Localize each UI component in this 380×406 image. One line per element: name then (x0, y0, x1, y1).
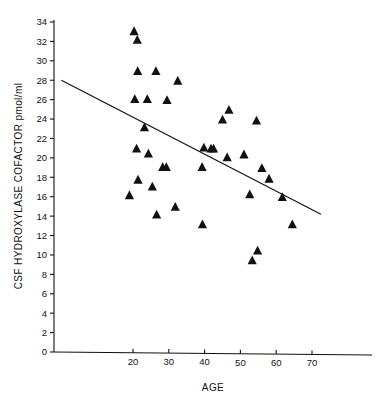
data-point-marker (248, 255, 257, 264)
y-tick-label: 6 (42, 288, 47, 299)
y-tick-label: 10 (36, 249, 47, 260)
y-tick-label: 24 (36, 113, 47, 124)
data-point-marker (224, 105, 233, 114)
y-tick-label: 32 (36, 36, 47, 47)
data-point-marker (151, 66, 160, 75)
y-tick-label: 0 (42, 346, 47, 357)
data-point-marker (171, 202, 180, 211)
data-point-marker (143, 94, 152, 103)
y-tick-label: 2 (42, 327, 47, 338)
data-point-marker (253, 246, 262, 255)
data-point-marker (199, 143, 208, 152)
data-points-group (125, 26, 297, 264)
y-tick-label: 34 (36, 16, 47, 27)
data-point-marker (132, 144, 141, 153)
data-point-marker (148, 182, 157, 191)
data-point-marker (223, 153, 232, 162)
x-axis-line (54, 352, 372, 355)
x-tick-label: 50 (235, 357, 246, 368)
chart-canvas: 0246810121416182022242628303234 20304050… (0, 0, 380, 406)
data-point-marker (129, 26, 138, 35)
x-tick-label: 40 (199, 356, 210, 367)
axes-group (54, 20, 372, 355)
scatter-plot-figure: 0246810121416182022242628303234 20304050… (0, 0, 380, 406)
data-point-marker (133, 175, 142, 184)
data-point-marker (133, 35, 142, 44)
y-tick-label: 18 (36, 172, 47, 183)
data-point-marker (173, 76, 182, 85)
x-tick-label: 60 (271, 357, 282, 368)
data-point-marker (252, 116, 261, 125)
y-tick-label: 28 (36, 75, 47, 86)
y-tick-label: 12 (36, 230, 47, 241)
x-axis-title: AGE (202, 382, 224, 393)
data-point-marker (245, 189, 254, 198)
x-axis-ticks: 203040506070 (128, 349, 318, 369)
y-tick-label: 4 (42, 308, 47, 319)
x-tick-label: 30 (164, 356, 175, 367)
data-point-marker (144, 149, 153, 158)
data-point-marker (239, 150, 248, 159)
data-point-marker (130, 94, 139, 103)
y-axis-ticks: 0246810121416182022242628303234 (36, 16, 54, 357)
y-axis-title: CSF HYDROXYLASE COFACTOR pmol/ml (13, 83, 24, 290)
data-point-marker (133, 66, 142, 75)
data-point-marker (218, 115, 227, 124)
y-tick-label: 14 (36, 211, 47, 222)
y-tick-label: 8 (42, 269, 47, 280)
data-point-marker (198, 219, 207, 228)
data-point-marker (288, 219, 297, 228)
data-point-marker (140, 122, 149, 131)
y-tick-label: 30 (36, 55, 47, 66)
data-point-marker (125, 190, 134, 199)
x-tick-label: 70 (307, 357, 318, 368)
data-point-marker (257, 163, 266, 172)
y-tick-label: 22 (36, 133, 47, 144)
data-point-marker (278, 192, 287, 201)
y-tick-label: 20 (36, 152, 47, 163)
data-point-marker (152, 210, 161, 219)
y-tick-label: 16 (36, 191, 47, 202)
data-point-marker (162, 95, 171, 104)
y-tick-label: 26 (36, 94, 47, 105)
x-tick-label: 20 (128, 356, 139, 367)
data-point-marker (264, 174, 273, 183)
data-point-marker (197, 162, 206, 171)
